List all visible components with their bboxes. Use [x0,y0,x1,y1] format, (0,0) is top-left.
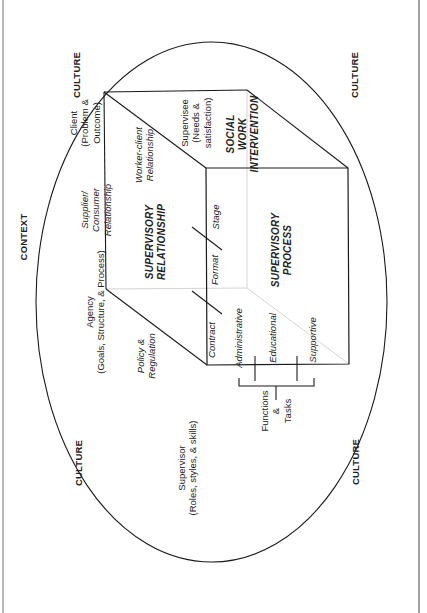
stage-stage: Stage [210,205,221,230]
function-educational: Educational [267,313,278,363]
policy-regulation-label: Policy & Regulation [135,333,158,378]
culture-label-top-left: CULTURE [71,52,82,98]
hidden-edge-diagonal [247,288,349,364]
supplier-consumer-label: Supplier/ Consumer Relationship [79,184,113,236]
supervisee-label: Supervisee (Needs & satisfaction) [179,98,213,149]
culture-label-bottom-left: CULTURE [73,440,84,486]
function-administrative: Administrative [233,308,244,368]
hidden-edge-horizontal [106,288,247,289]
supervisor-label: Supervisor (Roles, styles, & skills) [176,420,199,515]
client-label: Client (Problem & Outcome) [68,99,102,147]
functions-tasks-label: Functions & Tasks [259,390,293,431]
agency-label: Agency (Goals, Structure, & Process) [84,250,107,374]
supervisory-process-label: SUPERVISORY PROCESS [270,213,294,287]
stage-contract: Contract [206,322,217,358]
culture-label-top-right: CULTURE [349,52,360,98]
context-label: CONTEXT [18,214,29,261]
supervisory-relationship-label: SUPERVISORY RELATIONSHIP [144,204,168,280]
worker-client-label: Worker-client Relationship [133,127,156,183]
culture-label-bottom-right: CULTURE [350,439,361,485]
box-edge-diagonal-top-right [247,90,348,168]
social-work-intervention-label: SOCIAL WORK INTERVENTION [225,96,261,173]
functions-bracket [239,378,314,386]
function-supportive: Supportive [307,317,318,362]
box-edge-back-top [104,90,247,92]
stage-divider-1 [192,227,222,250]
stage-format: Format [209,255,220,285]
supervision-model-diagram: CONTEXT CULTURE CULTURE CULTURE CULTURE … [0,0,427,613]
diagram-lines [0,0,427,613]
